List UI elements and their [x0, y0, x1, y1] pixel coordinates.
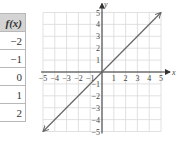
x-tick-label: −4: [51, 74, 60, 83]
y-tick-label: 4: [96, 20, 100, 29]
x-tick-label: −2: [74, 74, 83, 83]
x-tick-label: 1: [112, 74, 116, 83]
y-tick-label: 2: [96, 44, 100, 53]
y-tick-label: 3: [96, 32, 100, 41]
table-cell: −1: [0, 50, 26, 68]
x-tick-label: −5: [39, 74, 48, 83]
coordinate-graph: xy−5−4−3−2−11234554321−1−2−3−4−5: [36, 0, 180, 141]
y-tick-label: −5: [91, 128, 100, 137]
y-tick-label: −2: [91, 92, 100, 101]
table-cell: 1: [0, 86, 26, 104]
y-tick-label: −4: [91, 116, 100, 125]
tick-labels: xy−5−4−3−2−11234554321−1−2−3−4−5: [39, 0, 176, 137]
table-cell: −2: [0, 32, 26, 50]
table-cell: 2: [0, 104, 26, 122]
y-tick-label: 1: [96, 56, 100, 65]
table-header-fx: f(x): [0, 14, 26, 32]
graph-svg: xy−5−4−3−2−11234554321−1−2−3−4−5: [36, 0, 180, 141]
table-cell: 0: [0, 68, 26, 86]
x-axis-label: x: [171, 68, 176, 77]
x-tick-label: 5: [159, 74, 163, 83]
y-tick-label: 5: [96, 9, 100, 18]
function-table: f(x) −2 −1 0 1 2: [0, 13, 26, 122]
y-tick-label: −3: [91, 104, 100, 113]
x-tick-label: 4: [147, 74, 151, 83]
x-tick-label: 3: [135, 74, 139, 83]
x-tick-label: −3: [62, 74, 71, 83]
y-axis-label: y: [103, 0, 108, 9]
x-tick-label: 2: [124, 74, 128, 83]
